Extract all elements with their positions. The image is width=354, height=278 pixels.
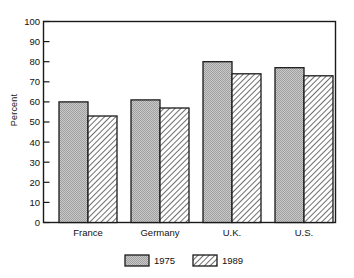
- bar-uk-1989: [232, 74, 261, 223]
- x-tick-label-france: France: [52, 227, 124, 238]
- bar-germany-1975: [131, 100, 160, 223]
- legend-swatch-1975: [125, 255, 149, 266]
- x-tick-label-uk: U.K.: [196, 227, 268, 238]
- x-tick-label-us: U.S.: [268, 227, 340, 238]
- legend-swatch-1989: [193, 255, 217, 266]
- bar-uk-1975: [203, 62, 232, 223]
- bar-france-1975: [59, 102, 88, 223]
- bar-chart: Percent 100 90 80 70 60 50 40 30 20 10 0: [0, 0, 354, 278]
- bar-germany-1989: [160, 108, 189, 223]
- bar-france-1989: [88, 116, 117, 223]
- y-axis-ticks: [44, 22, 50, 223]
- bar-us-1989: [304, 76, 333, 223]
- legend-label-1989: 1989: [222, 255, 243, 266]
- x-tick-label-germany: Germany: [124, 227, 196, 238]
- legend-label-1975: 1975: [154, 255, 175, 266]
- bar-us-1975: [275, 68, 304, 223]
